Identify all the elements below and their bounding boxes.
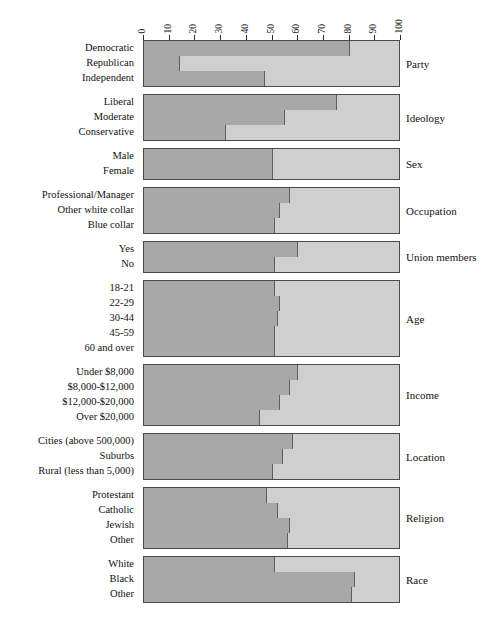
category-label: 18-21: [0, 281, 134, 296]
bar-group: [143, 40, 400, 87]
category-label: Male: [0, 149, 134, 164]
bar-row: [144, 410, 399, 425]
axis-tick-label: 80: [343, 24, 353, 34]
category-label: Female: [0, 164, 134, 179]
category-label: 22-29: [0, 296, 134, 311]
category-label: Yes: [0, 242, 134, 257]
bar-row: [144, 296, 399, 311]
bar-segment: [144, 488, 267, 503]
bar-segment: [144, 503, 278, 518]
bar-segment: [144, 518, 290, 533]
bar-row: [144, 449, 399, 464]
category-label: Rural (less than 5,000): [0, 464, 134, 479]
category-label-column: Under $8,000$8,000-$12,000$12,000-$20,00…: [0, 365, 138, 425]
bar-row: [144, 110, 399, 125]
bar-segment: [144, 203, 280, 218]
category-label: Catholic: [0, 503, 134, 518]
bar-row: [144, 257, 399, 272]
category-label: Protestant: [0, 488, 134, 503]
bar-segment: [144, 557, 275, 572]
bar-group: [143, 556, 400, 603]
axis-tick-label: 0: [138, 28, 148, 33]
bar-row: [144, 281, 399, 296]
axis-tick-label: 20: [189, 24, 199, 34]
bar-row: [144, 434, 399, 449]
category-label: Liberal: [0, 95, 134, 110]
category-label-column: 18-2122-2930-4445-5960 and over: [0, 281, 138, 356]
bar-segment: [144, 434, 293, 449]
bar-segment: [144, 125, 226, 140]
bar-segment: [144, 257, 275, 272]
bar-segment: [144, 296, 280, 311]
group-label-text: Race: [406, 574, 428, 586]
bar-group: [143, 487, 400, 549]
bar-row: [144, 380, 399, 395]
category-label: Over $20,000: [0, 410, 134, 425]
bar-row: [144, 203, 399, 218]
category-label: White: [0, 557, 134, 572]
group-label: Location: [406, 433, 482, 480]
x-axis: 0102030405060708090100: [143, 14, 400, 40]
bar-row: [144, 533, 399, 548]
bar-row: [144, 188, 399, 203]
bar-segment: [144, 395, 280, 410]
category-label: Republican: [0, 56, 134, 71]
bar-group: [143, 94, 400, 141]
category-label: Professional/Manager: [0, 188, 134, 203]
category-label: Blue collar: [0, 218, 134, 233]
category-label: Other: [0, 587, 134, 602]
bar-segment: [144, 572, 355, 587]
bar-segment: [144, 149, 273, 164]
category-label-column: WhiteBlackOther: [0, 557, 138, 602]
bar-row: [144, 341, 399, 356]
bar-row: [144, 242, 399, 257]
bar-row: [144, 149, 399, 164]
axis-tick: [400, 35, 401, 40]
group-label-text: Occupation: [406, 205, 457, 217]
bar-segment: [144, 188, 290, 203]
bar-segment: [144, 281, 275, 296]
category-label-column: Professional/ManagerOther white collarBl…: [0, 188, 138, 233]
bar-row: [144, 572, 399, 587]
group-label-text: Age: [406, 313, 424, 325]
category-label-column: Cities (above 500,000)SuburbsRural (less…: [0, 434, 138, 479]
category-label: Jewish: [0, 518, 134, 533]
bar-segment: [144, 341, 275, 356]
group-label: Age: [406, 280, 482, 357]
bar-row: [144, 311, 399, 326]
group-label: Ideology: [406, 94, 482, 141]
bar-row: [144, 488, 399, 503]
bar-row: [144, 557, 399, 572]
bar-segment: [144, 533, 288, 548]
group-label: Union members: [406, 241, 482, 273]
category-label: 30-44: [0, 311, 134, 326]
group-label-text: Union members: [406, 251, 477, 263]
bar-segment: [144, 164, 273, 179]
bar-group: [143, 364, 400, 426]
group-label: Religion: [406, 487, 482, 549]
bar-segment: [144, 410, 260, 425]
axis-tick-label: 10: [163, 24, 173, 34]
bar-segment: [144, 95, 337, 110]
group-label: Income: [406, 364, 482, 426]
bar-segment: [144, 56, 180, 71]
bar-row: [144, 164, 399, 179]
bar-group: [143, 148, 400, 180]
axis-tick-label: 40: [240, 24, 250, 34]
category-label: Other: [0, 533, 134, 548]
bar-row: [144, 56, 399, 71]
category-label: No: [0, 257, 134, 272]
category-label-column: YesNo: [0, 242, 138, 272]
group-label: Sex: [406, 148, 482, 180]
bar-row: [144, 71, 399, 86]
bar-segment: [144, 41, 350, 56]
bar-row: [144, 365, 399, 380]
bar-segment: [144, 449, 283, 464]
group-label-text: Ideology: [406, 112, 445, 124]
category-label-column: LiberalModerateConservative: [0, 95, 138, 140]
category-label: 45-59: [0, 326, 134, 341]
bar-row: [144, 503, 399, 518]
group-label-text: Income: [406, 389, 439, 401]
group-label-text: Sex: [406, 158, 423, 170]
bar-segment: [144, 218, 275, 233]
